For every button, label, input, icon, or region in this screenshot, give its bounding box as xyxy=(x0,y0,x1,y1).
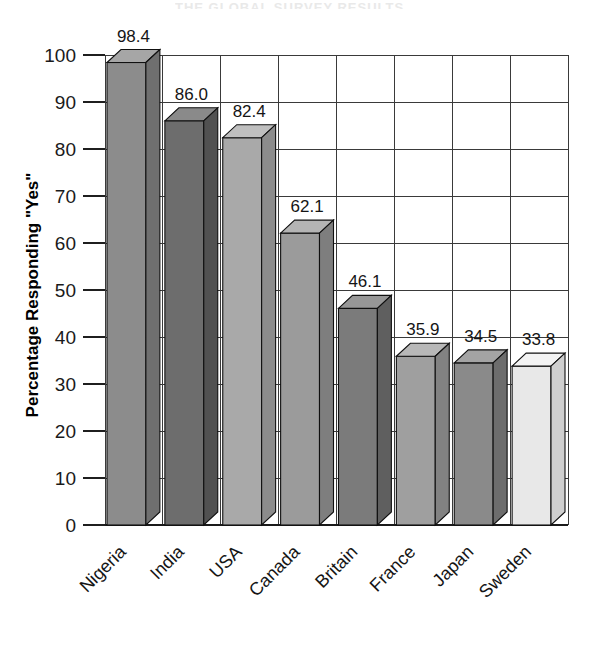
x-tick-label-sweden: Sweden xyxy=(475,542,535,602)
bar-side-face xyxy=(377,295,391,525)
bar-value-label: 46.1 xyxy=(348,272,381,291)
x-tick-label-japan: Japan xyxy=(428,542,477,591)
bar-value-label: 33.8 xyxy=(522,330,555,349)
bar-canada[interactable] xyxy=(281,220,334,525)
bar-chart: 010203040506070809010098.486.082.462.146… xyxy=(0,0,593,669)
x-tick-label-usa: USA xyxy=(205,542,245,582)
bar-value-label: 35.9 xyxy=(406,320,439,339)
bar-side-face xyxy=(435,343,449,525)
bar-front-face xyxy=(223,138,262,525)
bar-sweden[interactable] xyxy=(512,353,565,525)
bar-side-face xyxy=(551,353,565,525)
bar-side-face xyxy=(493,350,507,525)
bar-side-face xyxy=(320,220,334,525)
y-axis-title: Percentage Responding "Yes" xyxy=(23,173,42,418)
y-tick-label: 40 xyxy=(55,327,76,348)
bar-front-face xyxy=(396,356,435,525)
bar-value-label: 98.4 xyxy=(117,27,150,46)
bar-india[interactable] xyxy=(165,108,218,525)
bar-nigeria[interactable] xyxy=(107,50,160,525)
bar-value-label: 86.0 xyxy=(175,85,208,104)
bar-front-face xyxy=(281,233,320,525)
bar-usa[interactable] xyxy=(223,125,276,525)
y-tick-label: 10 xyxy=(55,468,76,489)
y-tick-label: 50 xyxy=(55,280,76,301)
bar-side-face xyxy=(204,108,218,525)
bar-front-face xyxy=(107,63,146,525)
y-tick-label: 100 xyxy=(44,45,76,66)
bar-front-face xyxy=(339,308,378,525)
x-tick-label-nigeria: Nigeria xyxy=(76,541,131,596)
bar-side-face xyxy=(262,125,276,525)
x-tick-label-india: India xyxy=(146,541,188,583)
y-tick-label: 0 xyxy=(65,515,76,536)
bar-value-label: 62.1 xyxy=(291,197,324,216)
y-tick-label: 90 xyxy=(55,92,76,113)
x-tick-label-canada: Canada xyxy=(245,541,304,600)
x-tick-label-france: France xyxy=(366,542,420,596)
bar-value-label: 34.5 xyxy=(464,327,497,346)
bar-front-face xyxy=(165,121,204,525)
y-tick-label: 80 xyxy=(55,139,76,160)
y-tick-label: 30 xyxy=(55,374,76,395)
y-tick-label: 70 xyxy=(55,186,76,207)
bar-side-face xyxy=(146,50,160,525)
bar-value-label: 82.4 xyxy=(233,102,266,121)
chart-canvas: 010203040506070809010098.486.082.462.146… xyxy=(0,0,593,669)
y-tick-label: 60 xyxy=(55,233,76,254)
bar-front-face xyxy=(454,363,493,525)
x-tick-label-britain: Britain xyxy=(311,542,361,592)
y-axis-ticks: 0102030405060708090100 xyxy=(44,45,105,536)
y-tick-label: 20 xyxy=(55,421,76,442)
bar-front-face xyxy=(512,366,551,525)
x-axis-labels: NigeriaIndiaUSACanadaBritainFranceJapanS… xyxy=(76,541,536,602)
bar-japan[interactable] xyxy=(454,350,507,525)
bar-britain[interactable] xyxy=(339,295,392,525)
bar-france[interactable] xyxy=(396,343,449,525)
